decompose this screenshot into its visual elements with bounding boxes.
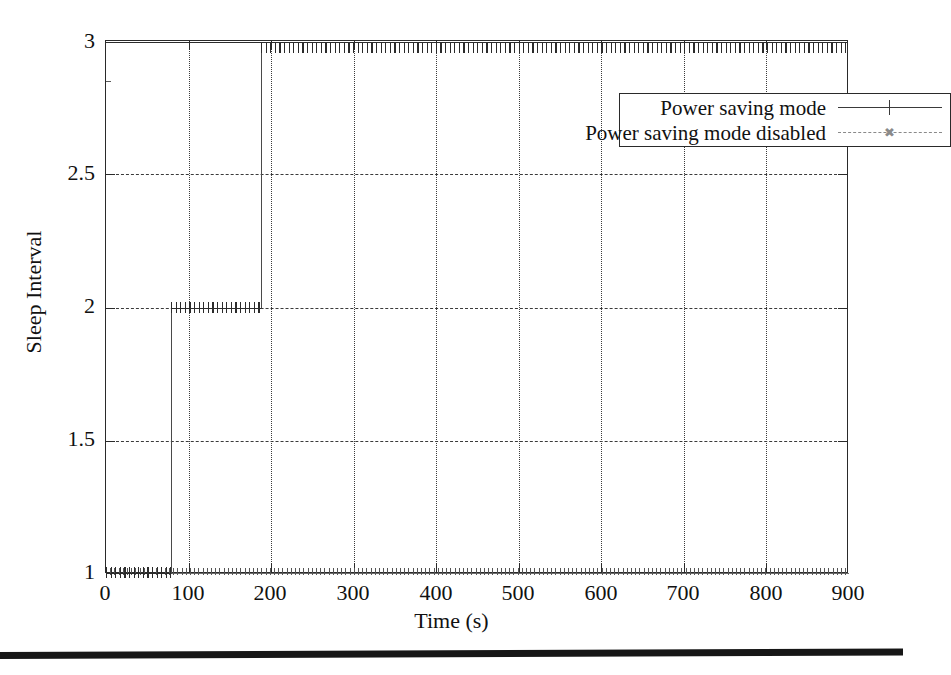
xtick-label-800: 800 bbox=[721, 582, 811, 604]
xtick-mark-300-top bbox=[354, 41, 355, 50]
legend-key-plus-vertical bbox=[889, 100, 890, 115]
vgrid-300 bbox=[354, 41, 355, 572]
hgrid-2 bbox=[106, 308, 847, 309]
ytick-label-3: 3 bbox=[15, 30, 95, 52]
xtick-mark-400 bbox=[436, 563, 437, 572]
ytick-minor-2_85 bbox=[106, 81, 111, 82]
xtick-label-900: 900 bbox=[803, 582, 893, 604]
ytick-mark-1_5-right bbox=[838, 441, 847, 442]
legend-entry-power-saving-mode-disabled[interactable]: Power saving mode disabled ✖ bbox=[620, 120, 950, 146]
y-axis-title-wrapper: Sleep Interval bbox=[21, 152, 51, 432]
ytick-label-1: 1 bbox=[15, 561, 95, 583]
xtick-mark-200-top bbox=[271, 41, 272, 50]
xtick-mark-500 bbox=[519, 563, 520, 572]
vgrid-500 bbox=[519, 41, 520, 572]
xtick-label-600: 600 bbox=[556, 582, 646, 604]
ytick-mark-1_5 bbox=[106, 441, 115, 442]
vgrid-200 bbox=[271, 41, 272, 572]
disabled-marker-strip bbox=[106, 568, 849, 575]
xtick-mark-200 bbox=[271, 563, 272, 572]
legend[interactable]: Power saving mode Power saving mode disa… bbox=[619, 93, 951, 147]
hgrid-1_5 bbox=[106, 441, 847, 442]
ytick-mark-2_5-right bbox=[838, 174, 847, 175]
ytick-mark-2-right bbox=[838, 308, 847, 309]
xtick-mark-600 bbox=[601, 563, 602, 572]
xtick-label-100: 100 bbox=[143, 582, 233, 604]
xtick-label-200: 200 bbox=[225, 582, 315, 604]
plot-area: Power saving mode Power saving mode disa… bbox=[105, 40, 848, 573]
xtick-label-0: 0 bbox=[60, 582, 150, 604]
legend-key-line-solid bbox=[838, 107, 942, 108]
x-marker-icon: ✖ bbox=[838, 124, 942, 142]
psm-markers-level2 bbox=[171, 302, 261, 313]
vgrid-400 bbox=[436, 41, 437, 572]
disabled-flat-segment bbox=[106, 573, 849, 574]
vgrid-100 bbox=[189, 41, 190, 572]
x-axis-title: Time (s) bbox=[0, 608, 903, 634]
xtick-mark-600-top bbox=[601, 41, 602, 50]
ytick-mark-2_5 bbox=[106, 174, 115, 175]
xtick-label-400: 400 bbox=[391, 582, 481, 604]
xtick-mark-800-top bbox=[766, 41, 767, 50]
xtick-mark-400-top bbox=[436, 41, 437, 50]
psm-riser-2-to-3 bbox=[261, 42, 262, 308]
xtick-label-300: 300 bbox=[308, 582, 398, 604]
hgrid-2_5 bbox=[106, 174, 847, 175]
xtick-mark-700-top bbox=[684, 41, 685, 50]
xtick-mark-500-top bbox=[519, 41, 520, 50]
legend-label-power-saving-mode-disabled: Power saving mode disabled bbox=[585, 121, 826, 146]
xtick-mark-100 bbox=[189, 563, 190, 572]
legend-entry-power-saving-mode[interactable]: Power saving mode bbox=[620, 95, 950, 121]
page-scan-artifact-bar bbox=[0, 649, 903, 659]
psm-top-rail-left bbox=[106, 42, 261, 43]
psm-riser-1-to-2 bbox=[171, 308, 172, 574]
ytick-mark-2 bbox=[106, 308, 115, 309]
xtick-mark-700 bbox=[684, 563, 685, 572]
plus-marker-icon bbox=[838, 99, 942, 117]
xtick-mark-800 bbox=[766, 563, 767, 572]
xtick-label-700: 700 bbox=[638, 582, 728, 604]
xtick-mark-100-top bbox=[189, 41, 190, 50]
legend-key-x-glyph: ✖ bbox=[884, 127, 895, 138]
psm-markers-level1 bbox=[106, 567, 171, 578]
y-axis-title: Sleep Interval bbox=[21, 231, 46, 354]
psm-segment-level2 bbox=[171, 308, 261, 309]
xtick-mark-300 bbox=[354, 563, 355, 572]
psm-markers-level3 bbox=[261, 42, 848, 53]
psm-segment-level1 bbox=[106, 573, 171, 574]
psm-segment-level3 bbox=[261, 42, 848, 43]
xtick-label-500: 500 bbox=[473, 582, 563, 604]
legend-label-power-saving-mode: Power saving mode bbox=[660, 96, 826, 121]
